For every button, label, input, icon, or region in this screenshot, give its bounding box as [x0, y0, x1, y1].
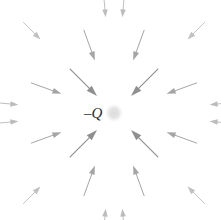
field-diagram-canvas: –Q — [0, 0, 221, 220]
point-charge-dot — [105, 104, 123, 122]
electric-field-vector-plot — [0, 0, 221, 220]
charge-label: –Q — [84, 106, 102, 121]
